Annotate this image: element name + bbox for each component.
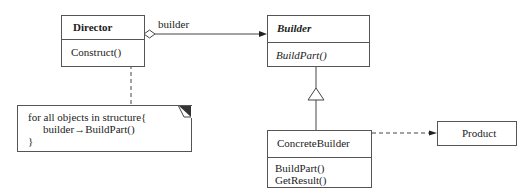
operation: GetResult() bbox=[275, 174, 326, 187]
class-director: Director Construct() bbox=[61, 15, 145, 67]
operation: Construct() bbox=[71, 46, 121, 59]
note-line: } bbox=[28, 135, 33, 148]
class-name: Director bbox=[73, 21, 113, 34]
class-name: Product bbox=[462, 127, 496, 140]
class-name: ConcreteBuilder bbox=[277, 137, 350, 150]
dependency-arrowhead-icon bbox=[429, 131, 437, 136]
note-line: builder→BuildPart() bbox=[43, 123, 135, 136]
inheritance-triangle-icon bbox=[308, 88, 324, 100]
class-builder: Builder BuildPart() bbox=[267, 15, 370, 67]
class-product: Product bbox=[437, 121, 517, 146]
operation: BuildPart() bbox=[276, 49, 327, 62]
class-name: Builder bbox=[277, 22, 311, 35]
class-concrete-builder: ConcreteBuilder BuildPart() GetResult() bbox=[267, 130, 372, 188]
aggregation-diamond-icon bbox=[144, 30, 155, 38]
association-label: builder bbox=[158, 18, 189, 31]
arrowhead-icon bbox=[259, 31, 267, 37]
code-note: for all objects in structure{ builder→Bu… bbox=[17, 105, 192, 152]
